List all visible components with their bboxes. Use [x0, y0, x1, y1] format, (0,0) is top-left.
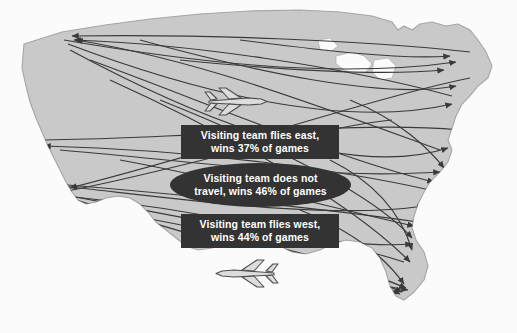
callout-east-line1: Visiting team flies east, — [201, 129, 319, 143]
callout-no-travel: Visiting team does not travel, wins 46% … — [170, 163, 351, 207]
callout-west-line2: wins 44% of games — [211, 231, 309, 245]
callout-west-line1: Visiting team flies west, — [200, 218, 321, 232]
callout-flies-east: Visiting team flies east, wins 37% of ga… — [181, 125, 339, 159]
callout-none-line2: travel, wins 46% of games — [194, 185, 327, 199]
callout-none-line1: Visiting team does not — [203, 172, 317, 186]
callout-east-line2: wins 37% of games — [211, 142, 309, 156]
callout-flies-west: Visiting team flies west, wins 44% of ga… — [181, 214, 339, 248]
airplane-icon-west — [208, 256, 280, 292]
infographic-canvas: Visiting team flies east, wins 37% of ga… — [0, 0, 517, 333]
airplane-icon-east — [203, 84, 275, 120]
